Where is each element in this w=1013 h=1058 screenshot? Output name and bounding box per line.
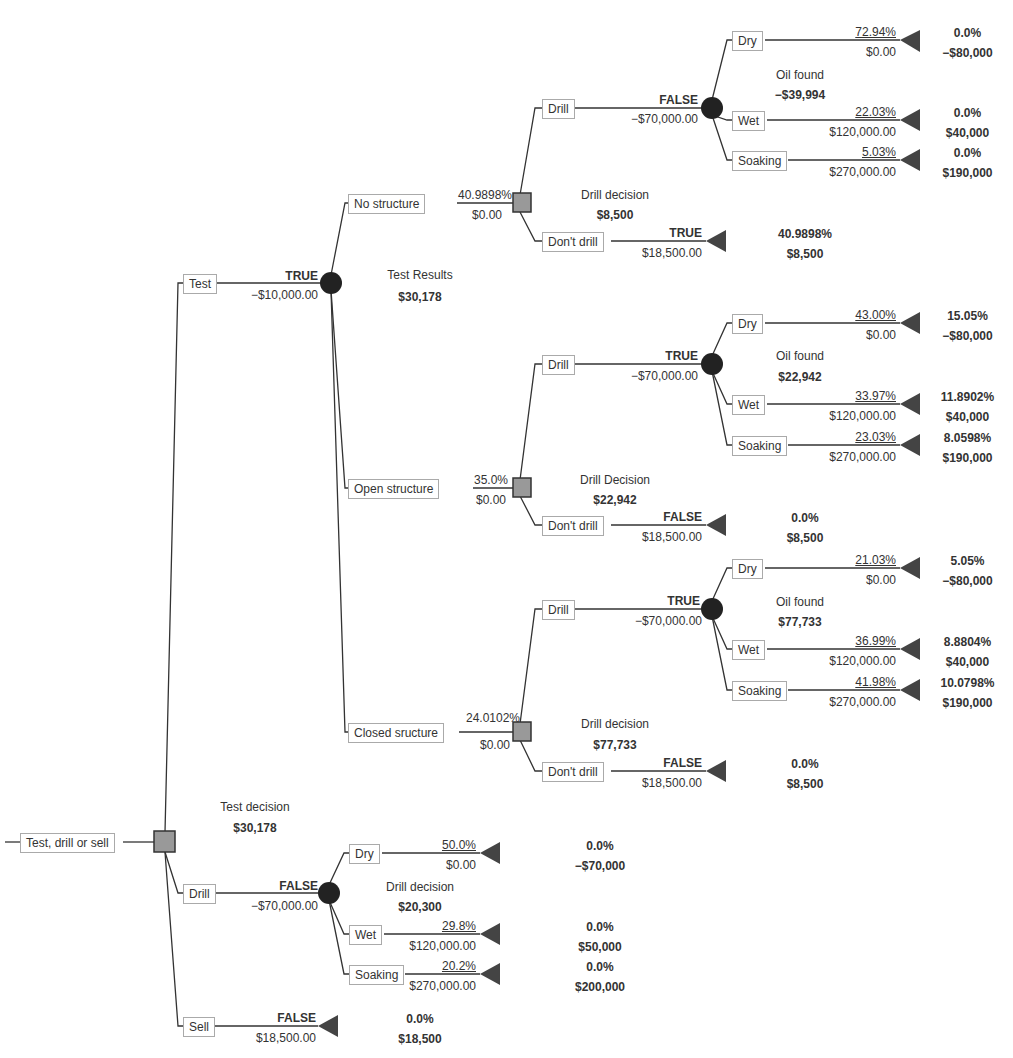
- oil-found-3-value: $77,733: [755, 615, 845, 629]
- leaf-soaking-2-payoff: $270,000.00: [790, 450, 896, 464]
- leaf-soaking-3-end-value: $190,000: [925, 696, 1010, 710]
- leaf-dry-direct-prob: 50.0%: [420, 838, 476, 852]
- leaf-soaking-1[interactable]: Soaking: [732, 151, 787, 171]
- leaf-soaking-1-prob: 5.03%: [830, 145, 896, 159]
- branch-drill-2[interactable]: Drill: [542, 355, 575, 375]
- leaf-dry-1-prob: 72.94%: [830, 25, 896, 39]
- chance-node-oil-found-1: [701, 97, 723, 119]
- root-node-label[interactable]: Test, drill or sell: [20, 833, 115, 853]
- leaf-soaking-1-end-value: $190,000: [925, 166, 1010, 180]
- leaf-wet-3-payoff: $120,000.00: [790, 654, 896, 668]
- oil-found-1-name: Oil found: [755, 68, 845, 82]
- leaf-dry-3-end-value: −$80,000: [925, 574, 1010, 588]
- leaf-wet-3[interactable]: Wet: [732, 640, 765, 660]
- leaf-soaking-direct-payoff: $270,000.00: [400, 979, 476, 993]
- leaf-wet-direct[interactable]: Wet: [349, 925, 382, 945]
- root-node-name: Test decision: [200, 800, 310, 814]
- outcome-open-structure[interactable]: Open structure: [348, 479, 439, 499]
- branch-drill-1[interactable]: Drill: [542, 99, 575, 119]
- branch-drill-2-flag: TRUE: [630, 349, 698, 363]
- outcome-closed-structure-prob: 24.0102%: [440, 711, 520, 725]
- leaf-dry-1[interactable]: Dry: [732, 31, 763, 51]
- leaf-wet-2[interactable]: Wet: [732, 395, 765, 415]
- leaf-soaking-direct-end-value: $200,000: [560, 980, 640, 994]
- leaf-wet-1-end-value: $40,000: [925, 126, 1010, 140]
- leaf-soaking-3-prob: 41.98%: [830, 675, 896, 689]
- branch-dont-drill-3[interactable]: Don't drill: [542, 762, 604, 782]
- chance-node-drill-decision: [318, 882, 340, 904]
- oil-found-1-value: −$39,994: [755, 88, 845, 102]
- drill-decision-3-value: $77,733: [565, 738, 665, 752]
- drill-decision-3-name: Drill decision: [565, 717, 665, 731]
- leaf-wet-direct-payoff: $120,000.00: [400, 939, 476, 953]
- branch-dont-drill-2-end-value: $8,500: [760, 531, 850, 545]
- branch-dont-drill-2-payoff: $18,500.00: [610, 530, 702, 544]
- oil-found-2-value: $22,942: [755, 370, 845, 384]
- branch-drill-3-flag: TRUE: [630, 594, 700, 608]
- branch-dont-drill-2-end-prob: 0.0%: [760, 511, 850, 525]
- branch-drill-1-flag: FALSE: [630, 93, 698, 107]
- drill-direct-node-name: Drill decision: [370, 880, 470, 894]
- drill-decision-2-name: Drill Decision: [565, 473, 665, 487]
- leaf-wet-3-prob: 36.99%: [830, 634, 896, 648]
- leaf-dry-1-payoff: $0.00: [800, 45, 896, 59]
- leaf-wet-1-end-prob: 0.0%: [925, 106, 1010, 120]
- leaf-dry-3-end-prob: 5.05%: [925, 554, 1010, 568]
- leaf-wet-direct-end-prob: 0.0%: [560, 920, 640, 934]
- leaf-dry-2-end-value: −$80,000: [925, 329, 1010, 343]
- leaf-soaking-2[interactable]: Soaking: [732, 436, 787, 456]
- leaf-dry-3-prob: 21.03%: [830, 553, 896, 567]
- decision-node-root: [154, 831, 175, 852]
- drill-direct-node-value: $20,300: [370, 900, 470, 914]
- branch-sell-end-value: $18,500: [380, 1032, 460, 1046]
- leaf-soaking-direct[interactable]: Soaking: [349, 965, 404, 985]
- test-results-value: $30,178: [370, 290, 470, 304]
- branch-dont-drill-1-flag: TRUE: [640, 226, 702, 240]
- outcome-closed-structure[interactable]: Closed sructure: [348, 723, 444, 743]
- leaf-soaking-2-prob: 23.03%: [830, 430, 896, 444]
- branch-dont-drill-1-payoff: $18,500.00: [610, 246, 702, 260]
- branch-dont-drill-2[interactable]: Don't drill: [542, 516, 604, 536]
- leaf-dry-direct-end-value: −$70,000: [560, 859, 640, 873]
- branch-dont-drill-3-end-value: $8,500: [760, 777, 850, 791]
- leaf-wet-1-prob: 22.03%: [830, 105, 896, 119]
- leaf-dry-2-prob: 43.00%: [830, 308, 896, 322]
- leaf-soaking-3[interactable]: Soaking: [732, 681, 787, 701]
- test-results-name: Test Results: [370, 268, 470, 282]
- leaf-wet-2-end-value: $40,000: [925, 410, 1010, 424]
- outcome-no-structure[interactable]: No structure: [348, 194, 425, 214]
- leaf-wet-direct-prob: 29.8%: [420, 919, 476, 933]
- leaf-dry-3[interactable]: Dry: [732, 559, 763, 579]
- branch-test-flag: TRUE: [250, 269, 318, 283]
- drill-decision-1-value: $8,500: [565, 208, 665, 222]
- branch-dont-drill-3-flag: FALSE: [640, 756, 702, 770]
- branch-sell-payoff: $18,500.00: [200, 1031, 316, 1045]
- root-node-value: $30,178: [200, 821, 310, 835]
- leaf-dry-direct-end-prob: 0.0%: [560, 839, 640, 853]
- drill-decision-2-value: $22,942: [565, 493, 665, 507]
- branch-dont-drill-1-end-prob: 40.9898%: [760, 227, 850, 241]
- leaf-dry-direct-payoff: $0.00: [420, 858, 476, 872]
- leaf-soaking-3-end-prob: 10.0798%: [925, 676, 1010, 690]
- leaf-wet-2-prob: 33.97%: [830, 389, 896, 403]
- leaf-soaking-3-payoff: $270,000.00: [790, 695, 896, 709]
- leaf-dry-1-end-prob: 0.0%: [925, 26, 1010, 40]
- branch-test-cost: −$10,000.00: [200, 288, 318, 302]
- decision-node-open-structure: [513, 478, 531, 497]
- leaf-soaking-2-end-prob: 8.0598%: [925, 431, 1010, 445]
- leaf-wet-2-end-prob: 11.8902%: [925, 390, 1010, 404]
- outcome-open-structure-prob: 35.0%: [450, 473, 508, 487]
- branch-dont-drill-1-end-value: $8,500: [760, 247, 850, 261]
- leaf-dry-2-payoff: $0.00: [800, 328, 896, 342]
- leaf-dry-direct[interactable]: Dry: [349, 844, 380, 864]
- chance-node-oil-found-2: [701, 353, 723, 375]
- leaf-wet-1[interactable]: Wet: [732, 111, 765, 131]
- branch-drill-3[interactable]: Drill: [542, 600, 575, 620]
- branch-dont-drill-3-end-prob: 0.0%: [760, 757, 850, 771]
- leaf-dry-2[interactable]: Dry: [732, 314, 763, 334]
- leaf-soaking-1-end-prob: 0.0%: [925, 146, 1010, 160]
- branch-drill-2-cost: −$70,000.00: [600, 369, 698, 383]
- leaf-soaking-1-payoff: $270,000.00: [790, 165, 896, 179]
- branch-dont-drill-1[interactable]: Don't drill: [542, 232, 604, 252]
- decision-node-no-structure: [513, 193, 531, 212]
